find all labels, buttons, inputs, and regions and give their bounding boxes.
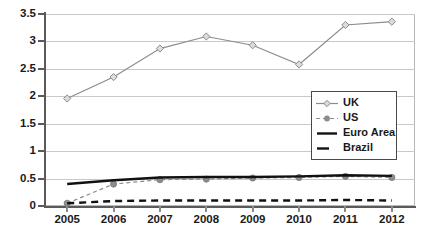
- legend-item-us[interactable]: US: [316, 110, 392, 125]
- y-tick-mark: [38, 95, 45, 97]
- legend-label: UK: [343, 96, 359, 109]
- y-axis-label: 3.5: [0, 8, 36, 19]
- y-axis-label: 1.5: [0, 118, 36, 129]
- legend-swatch-icon: [316, 111, 338, 124]
- legend-label: Euro Area: [343, 126, 395, 139]
- y-tick-mark: [38, 68, 45, 70]
- legend-swatch-icon: [316, 126, 338, 139]
- y-axis-label: 2.5: [0, 63, 36, 74]
- legend-label: US: [343, 111, 358, 124]
- chart-legend: UKUSEuro AreaBrazil: [311, 91, 397, 160]
- y-tick-mark: [38, 13, 45, 15]
- legend-swatch-icon: [316, 141, 338, 154]
- x-tick-mark: [298, 206, 300, 212]
- y-axis-label: 1: [0, 145, 36, 156]
- x-axis-line: [44, 206, 416, 208]
- x-axis-label: 2012: [366, 213, 418, 226]
- y-axis-label: 0.5: [0, 173, 36, 184]
- x-tick-mark: [113, 206, 115, 212]
- legend-item-uk[interactable]: UK: [316, 95, 392, 110]
- y-axis-label: 0: [0, 200, 36, 211]
- x-axis-label: 2010: [273, 213, 325, 226]
- x-tick-mark: [344, 206, 346, 212]
- y-axis-label: 3: [0, 35, 36, 46]
- x-axis-label: 2008: [180, 213, 232, 226]
- y-tick-mark: [38, 150, 45, 152]
- x-tick-mark: [159, 206, 161, 212]
- legend-swatch-icon: [316, 96, 338, 109]
- gridline: [44, 14, 415, 15]
- gridline: [44, 69, 415, 70]
- legend-item-brazil[interactable]: Brazil: [316, 140, 392, 155]
- x-axis-label: 2011: [319, 213, 371, 226]
- y-tick-mark: [38, 123, 45, 125]
- x-tick-mark: [205, 206, 207, 212]
- x-tick-mark: [391, 206, 393, 212]
- y-axis-label: 2: [0, 90, 36, 101]
- gridline: [44, 179, 415, 180]
- legend-item-euro-area[interactable]: Euro Area: [316, 125, 392, 140]
- x-tick-mark: [66, 206, 68, 212]
- y-tick-mark: [38, 205, 45, 207]
- y-tick-mark: [38, 178, 45, 180]
- line-chart: 00.511.522.533.5 20052006200720082009201…: [0, 0, 429, 241]
- x-axis-label: 2006: [88, 213, 140, 226]
- gridline: [44, 41, 415, 42]
- x-axis-label: 2005: [41, 213, 93, 226]
- x-tick-mark: [252, 206, 254, 212]
- x-axis-label: 2007: [134, 213, 186, 226]
- y-tick-mark: [38, 40, 45, 42]
- legend-label: Brazil: [343, 141, 373, 154]
- x-axis-label: 2009: [227, 213, 279, 226]
